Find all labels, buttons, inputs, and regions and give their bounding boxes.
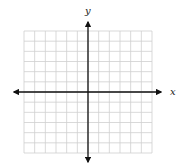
coordinate-plane: x y xyxy=(0,0,184,167)
y-axis-label: y xyxy=(84,5,91,16)
x-axis-label: x xyxy=(170,86,176,97)
